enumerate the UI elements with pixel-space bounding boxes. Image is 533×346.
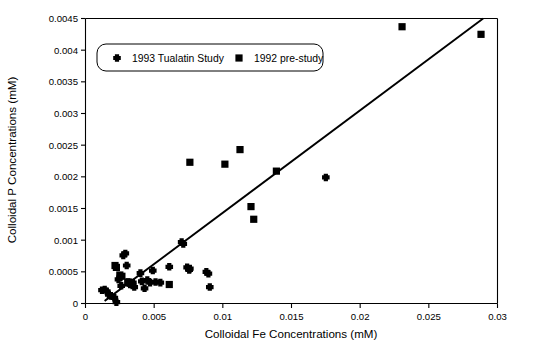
chart-legend: 1993 Tualatin Study 1992 pre-study bbox=[97, 44, 324, 71]
legend-label-1992: 1992 pre-study bbox=[254, 53, 324, 64]
x-axis-title: Colloidal Fe Concentrations (mM) bbox=[205, 327, 378, 340]
y-tick-label: 0.001 bbox=[54, 235, 78, 246]
x-tick-label: 0.015 bbox=[279, 311, 303, 322]
y-tick-label: 0.0015 bbox=[49, 203, 78, 214]
data-point-square bbox=[186, 159, 193, 166]
data-point-square bbox=[235, 54, 242, 61]
data-point-square bbox=[113, 264, 120, 271]
data-point-cross bbox=[206, 283, 214, 291]
x-tick-label: 0.005 bbox=[142, 311, 166, 322]
series-1993-tualatin-study-points bbox=[98, 174, 329, 306]
data-point-square bbox=[398, 23, 405, 30]
data-point-square bbox=[250, 216, 257, 223]
data-point-cross bbox=[123, 262, 131, 270]
data-point-cross bbox=[165, 263, 173, 271]
y-axis-ticks: 00.00050.0010.00150.0020.00250.0030.0035… bbox=[49, 13, 86, 309]
y-axis-title: Colloidal P Concentrations (mM) bbox=[5, 77, 18, 244]
x-axis-ticks: 00.0050.010.0150.020.0250.03 bbox=[83, 304, 507, 322]
data-point-square bbox=[477, 31, 484, 38]
legend-label-1993: 1993 Tualatin Study bbox=[132, 53, 225, 64]
y-tick-label: 0.0025 bbox=[49, 140, 78, 151]
data-point-square bbox=[236, 146, 243, 153]
y-tick-label: 0 bbox=[73, 298, 78, 309]
data-point-cross bbox=[322, 174, 330, 182]
y-tick-label: 0.0035 bbox=[49, 76, 78, 87]
data-point-square bbox=[247, 203, 254, 210]
y-tick-label: 0.002 bbox=[54, 171, 78, 182]
data-point-square bbox=[273, 168, 280, 175]
x-tick-label: 0 bbox=[83, 311, 88, 322]
y-tick-label: 0.003 bbox=[54, 108, 78, 119]
data-point-cross bbox=[141, 285, 149, 293]
data-point-square bbox=[166, 281, 173, 288]
x-tick-label: 0.025 bbox=[417, 311, 441, 322]
x-tick-label: 0.01 bbox=[213, 311, 232, 322]
y-tick-label: 0.0045 bbox=[49, 13, 78, 24]
x-tick-label: 0.02 bbox=[351, 311, 370, 322]
y-tick-label: 0.004 bbox=[54, 45, 79, 56]
x-tick-label: 0.03 bbox=[488, 311, 507, 322]
y-tick-label: 0.0005 bbox=[49, 266, 78, 277]
chart-canvas: 00.00050.0010.00150.0020.00250.0030.0035… bbox=[0, 0, 533, 346]
scatter-chart-figure: 00.00050.0010.00150.0020.00250.0030.0035… bbox=[0, 0, 533, 346]
legend-square-marker bbox=[235, 54, 242, 61]
data-point-square bbox=[221, 161, 228, 168]
